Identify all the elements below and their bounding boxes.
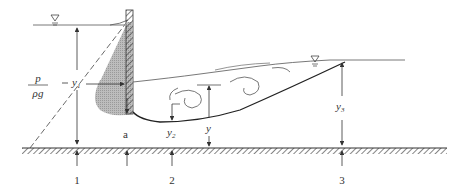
gate-opening-label: a [123,128,128,140]
section-3-label: 3 [339,174,345,186]
hydraulic-jump-diagram: y1 p ρg y2 y y3 a 1 2 3 [0,0,465,194]
pressure-head-denominator: ρg [32,87,44,99]
svg-text:y: y [205,122,211,134]
svg-text:y2: y2 [166,126,176,140]
pressure-head-numerator: p [34,72,41,84]
svg-text:y3: y3 [335,100,345,114]
svg-text:y1: y1 [71,76,80,90]
eddies [170,68,290,109]
channel-bed [22,148,447,154]
section-2-label: 2 [169,174,175,186]
section-1-label: 1 [74,174,80,186]
water-surface-triangle-icon [51,15,59,25]
jet-bottom-profile [133,62,345,122]
